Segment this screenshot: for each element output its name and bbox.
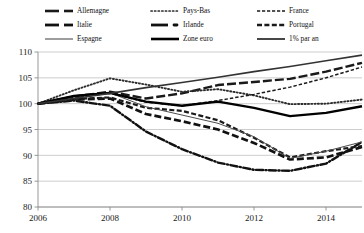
- x-tick-label: 2014: [317, 213, 336, 223]
- series-line-italie: [38, 99, 362, 160]
- chart-container: Allemagne Pays-Bas France: [0, 0, 364, 233]
- legend-label: Irlande: [183, 20, 204, 30]
- y-tick-label: 110: [19, 47, 33, 57]
- legend-line-portugal: [256, 20, 286, 30]
- y-tick-label: 90: [23, 151, 33, 161]
- legend-line-italie: [44, 20, 74, 30]
- y-tick-label: 80: [23, 202, 33, 212]
- series-line-1-par-an: [38, 55, 362, 104]
- legend-item-portugal[interactable]: Portugal: [256, 18, 362, 31]
- legend-label: Portugal: [289, 20, 314, 30]
- chart-legend: Allemagne Pays-Bas France: [44, 4, 362, 46]
- legend-label: France: [289, 6, 309, 16]
- legend-line-allemagne: [44, 6, 74, 16]
- legend-row: Allemagne Pays-Bas France: [44, 4, 362, 17]
- series-line-pays-bas: [38, 78, 362, 104]
- x-tick-label: 2008: [101, 213, 120, 223]
- x-tick-label: 2010: [173, 213, 192, 223]
- legend-label: Pays-Bas: [183, 6, 210, 16]
- x-tick-label: 2012: [245, 213, 263, 223]
- x-tick-label: 2006: [29, 213, 48, 223]
- legend-label: Espagne: [77, 34, 102, 44]
- legend-item-italie[interactable]: Italie: [44, 18, 150, 31]
- chart-y-tick-labels: 80859095100105110: [19, 47, 33, 212]
- series-line-portugal: [38, 97, 362, 157]
- y-tick-label: 85: [23, 176, 33, 186]
- legend-row: Espagne Zone euro 1% par an: [44, 32, 362, 45]
- legend-label: Allemagne: [77, 6, 109, 16]
- legend-item-1-pct-par-an[interactable]: 1% par an: [256, 32, 362, 45]
- legend-line-zone-euro: [150, 34, 180, 44]
- chart-x-axis: [38, 207, 362, 211]
- legend-line-1-pct: [256, 34, 286, 44]
- legend-item-france[interactable]: France: [256, 4, 362, 17]
- series-line-irlande: [38, 101, 362, 171]
- legend-item-irlande[interactable]: Irlande: [150, 18, 256, 31]
- y-tick-label: 100: [19, 99, 33, 109]
- chart-series-group: [38, 55, 362, 171]
- chart-y-axis: [35, 52, 39, 207]
- legend-line-irlande: [150, 20, 180, 30]
- y-tick-label: 105: [19, 73, 33, 83]
- chart-x-tick-labels: 20062008201020122014: [29, 213, 336, 223]
- chart-plot-area: 80859095100105110 20062008201020122014: [0, 46, 364, 233]
- chart-svg: 80859095100105110 20062008201020122014: [0, 46, 364, 233]
- legend-label: Zone euro: [183, 34, 213, 44]
- legend-item-allemagne[interactable]: Allemagne: [44, 4, 150, 17]
- legend-item-espagne[interactable]: Espagne: [44, 32, 150, 45]
- y-tick-label: 95: [23, 125, 33, 135]
- legend-label: 1% par an: [289, 34, 319, 44]
- legend-label: Italie: [77, 20, 92, 30]
- legend-line-espagne: [44, 34, 74, 44]
- legend-line-pays-bas: [150, 6, 180, 16]
- legend-item-pays-bas[interactable]: Pays-Bas: [150, 4, 256, 17]
- legend-item-zone-euro[interactable]: Zone euro: [150, 32, 256, 45]
- legend-row: Italie Irlande Portugal: [44, 18, 362, 31]
- legend-line-france: [256, 6, 286, 16]
- series-line-france: [38, 67, 362, 106]
